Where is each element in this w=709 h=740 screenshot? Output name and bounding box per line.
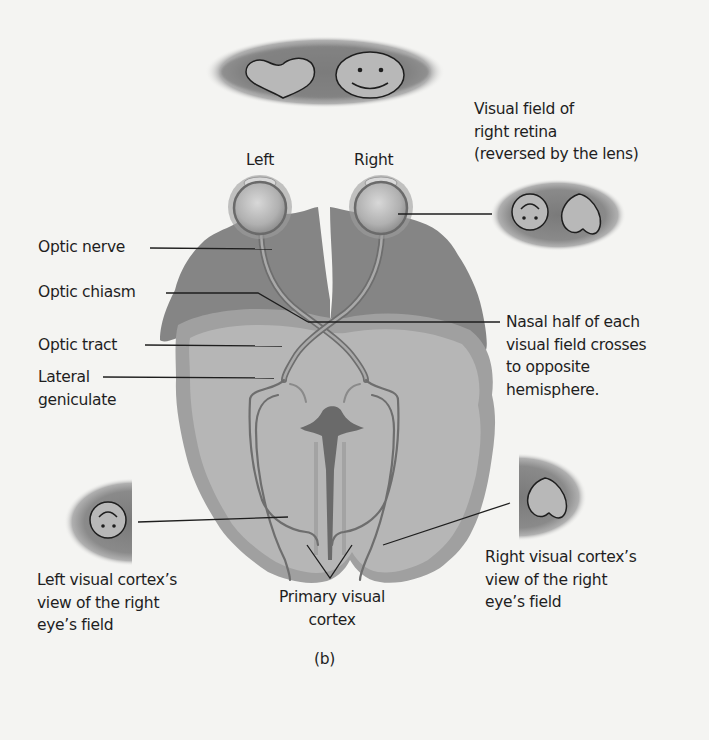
optic-chiasm-label: Optic chiasm — [38, 281, 136, 304]
left-eye-label: Left — [246, 149, 274, 172]
panel-label: (b) — [314, 648, 335, 671]
left-cortex-view-label: Left visual cortex’s view of the right e… — [37, 569, 177, 637]
visual-field-top — [205, 36, 445, 108]
left-cortex-field — [64, 478, 200, 566]
primary-visual-cortex-label: Primary visual cortex — [266, 586, 398, 631]
smiley-face-icon — [336, 52, 404, 98]
right-retina-field-label: Visual field of right retina (reversed b… — [474, 98, 639, 166]
right-retina-field — [490, 179, 626, 251]
right-eye-label: Right — [354, 149, 393, 172]
upside-down-smiley-icon — [90, 502, 126, 538]
optic-nerve-label: Optic nerve — [38, 236, 125, 259]
right-cortex-view-label: Right visual cortex’s view of the right … — [485, 546, 636, 614]
lateral-geniculate-label: Lateral geniculate — [38, 366, 116, 411]
brain — [160, 207, 495, 583]
upside-down-smiley-icon — [512, 194, 548, 230]
right-eye — [349, 175, 413, 239]
left-eye — [228, 175, 292, 239]
nasal-half-note: Nasal half of each visual field crosses … — [506, 311, 646, 401]
optic-tract-label: Optic tract — [38, 334, 117, 357]
